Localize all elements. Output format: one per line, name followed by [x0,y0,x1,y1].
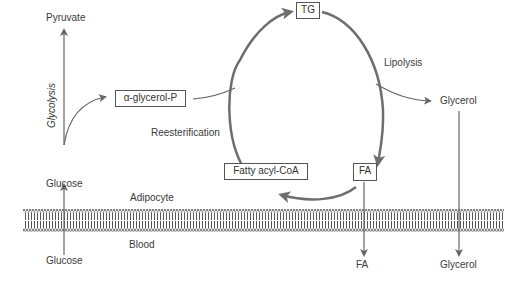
fa-blood-label: FA [356,259,368,271]
fa-box: FA [353,163,377,181]
lipolysis-arc [322,12,383,163]
alpha-glycerol-p-label: α-glycerol-P [124,92,178,103]
blood-label: Blood [129,239,155,251]
glycerol-inside-label: Glycerol [440,95,477,107]
reesterification-label: Reesterification [151,127,220,139]
glucose-inside-label: Glucose [46,178,83,190]
cell-membrane [23,209,504,232]
glucose-to-glycerolp-arrow [64,97,105,145]
fa-activation-arc [282,187,356,199]
adipocyte-label: Adipocyte [130,192,174,204]
lipolysis-glycerol-arrow [376,84,430,101]
tg-box: TG [296,2,320,19]
glycerol-blood-label: Glycerol [440,259,477,271]
fatty-acyl-coa-box: Fatty acyl-CoA [224,163,308,180]
adipocyte-lipid-cycle-diagram: Pyruvate Glycolysis Glucose Glucose α-gl… [0,0,525,286]
lipolysis-label: Lipolysis [384,57,422,69]
alpha-glycerol-p-box: α-glycerol-P [115,90,186,107]
pyruvate-label: Pyruvate [46,12,85,24]
reesterification-arc [229,12,290,170]
tg-label: TG [301,4,315,15]
fa-inside-label: FA [359,165,371,176]
glycolysis-label: Glycolysis [46,83,58,128]
glucose-blood-label: Glucose [46,255,83,267]
fatty-acyl-coa-label: Fatty acyl-CoA [233,165,299,176]
diagram-graphics [0,0,525,286]
